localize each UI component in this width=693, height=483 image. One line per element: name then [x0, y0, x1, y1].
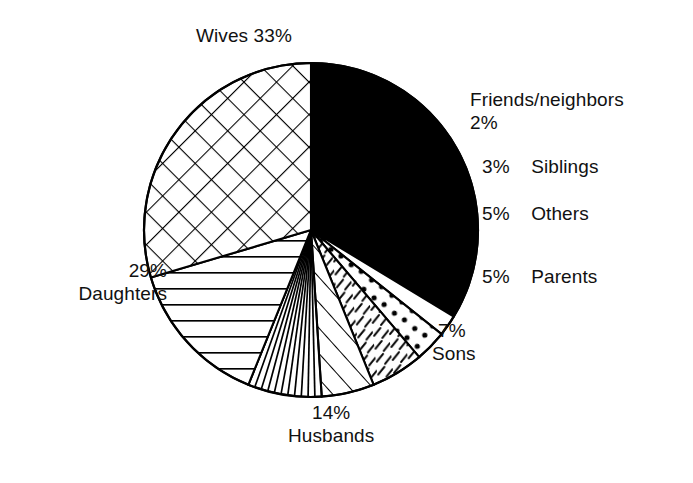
- sons-percent-text: 7%: [438, 319, 476, 342]
- slice-label-friends-neighbors: Friends/neighbors 2%: [470, 88, 624, 134]
- sons-name-text: Sons: [432, 342, 476, 365]
- slice-label-daughters: 29% Daughters: [2, 259, 167, 305]
- slice-label-husbands: 14% Husbands: [288, 401, 374, 447]
- husbands-percent-text: 14%: [288, 401, 374, 424]
- others-percent-text: 5%: [482, 203, 510, 224]
- daughters-name-text: Daughters: [2, 282, 167, 305]
- friends-name-text: Friends/neighbors: [470, 88, 624, 111]
- slice-label-parents: 5% Parents: [482, 265, 597, 288]
- pie-chart-page: Wives 33% Friends/neighbors 2% 3% Siblin…: [0, 0, 693, 483]
- slice-label-sons: 7% Sons: [438, 319, 476, 365]
- wives-label-text: Wives 33%: [196, 25, 292, 46]
- siblings-name-text: Siblings: [531, 156, 598, 177]
- husbands-name-text: Husbands: [288, 424, 374, 447]
- siblings-percent-text: 3%: [482, 156, 510, 177]
- slice-label-siblings: 3% Siblings: [482, 155, 599, 178]
- slice-label-wives: Wives 33%: [196, 24, 292, 47]
- others-name-text: Others: [531, 203, 589, 224]
- daughters-percent-text: 29%: [2, 259, 167, 282]
- parents-percent-text: 5%: [482, 266, 510, 287]
- pie-slices: [144, 63, 478, 397]
- parents-name-text: Parents: [531, 266, 597, 287]
- friends-percent-text: 2%: [470, 111, 624, 134]
- slice-label-others: 5% Others: [482, 202, 589, 225]
